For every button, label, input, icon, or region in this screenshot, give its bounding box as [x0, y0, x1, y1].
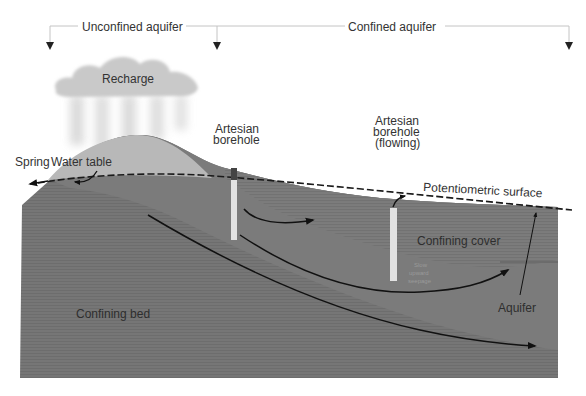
confined-aquifer-label: Confined aquifer	[348, 20, 436, 34]
slow-seepage-label-2: upward	[409, 270, 429, 276]
slow-seepage-label-1: Slow	[414, 262, 428, 268]
arrow-down-icon	[565, 42, 573, 50]
water-table-label: Water table	[51, 155, 112, 169]
flowing-artesian-borehole	[390, 208, 397, 281]
spring-label: Spring	[15, 155, 50, 169]
aquifer-label: Aquifer	[498, 301, 536, 315]
recharge-label: Recharge	[102, 72, 154, 86]
arrow-down-icon	[46, 42, 54, 50]
aquifer-diagram: Unconfined aquifer Confined aquifer Rech…	[0, 0, 586, 396]
arrow-down-icon	[213, 42, 221, 50]
slow-seepage-label-3: seepage	[408, 278, 432, 284]
confining-bed-label: Confining bed	[76, 307, 150, 321]
artesian-borehole-label-2: borehole	[213, 133, 260, 147]
confining-cover-label: Confining cover	[417, 234, 500, 248]
flowing-borehole-label-3: (flowing)	[375, 136, 420, 150]
unconfined-aquifer-label: Unconfined aquifer	[82, 20, 183, 34]
